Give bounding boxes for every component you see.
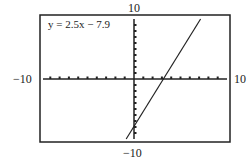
graph-window: [0, 0, 249, 165]
equation-label: y = 2.5x − 7.9: [48, 18, 110, 30]
x-min-label: −10: [13, 72, 32, 87]
x-max-label: 10: [234, 72, 246, 87]
y-max-label: 10: [128, 1, 140, 16]
y-min-label: −10: [123, 146, 142, 161]
